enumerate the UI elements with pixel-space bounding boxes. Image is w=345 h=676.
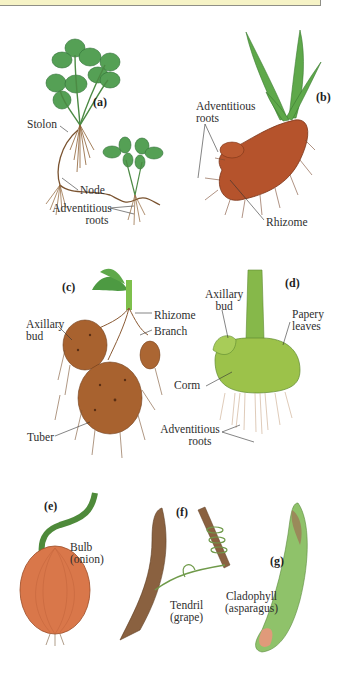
leader-lines xyxy=(0,0,345,676)
